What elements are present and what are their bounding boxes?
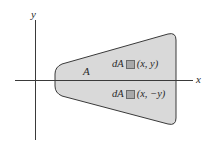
coords-label: (x, −y) [137, 89, 166, 100]
y-axis-label: y [31, 9, 36, 20]
area-element-lower: dA (x, −y) [112, 89, 165, 100]
area-element-upper: dA (x, y) [112, 59, 158, 70]
diagram-canvas: y x A dA (x, y) dA (x, −y) [0, 0, 212, 149]
area-element-square-icon [126, 90, 135, 99]
region-a-label: A [83, 66, 90, 77]
area-element-square-icon [126, 60, 135, 69]
da-prefix: dA [112, 89, 124, 100]
x-axis-label: x [196, 74, 201, 85]
da-prefix: dA [112, 59, 124, 70]
coords-label: (x, y) [137, 59, 159, 70]
region-a-shape [55, 34, 176, 125]
diagram-svg [0, 0, 212, 149]
